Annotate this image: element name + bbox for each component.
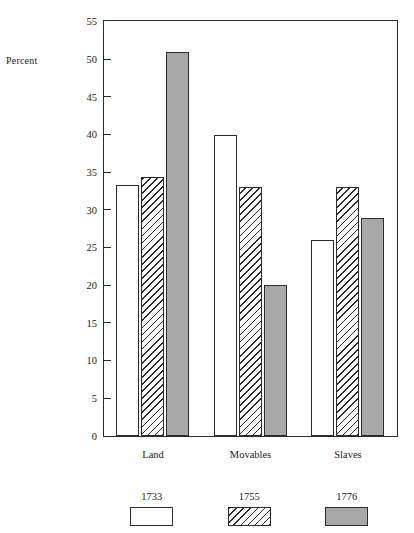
bar-slaves-1776 — [361, 218, 384, 437]
y-tick-label: 40 — [72, 129, 97, 140]
legend-swatch-solid — [325, 507, 368, 526]
y-axis-title: Percent — [6, 55, 37, 66]
legend-item-1755[interactable]: 1755 — [209, 490, 289, 526]
legend-label: 1733 — [112, 490, 192, 503]
y-tick-label: 35 — [72, 166, 97, 177]
y-tick-mark — [104, 209, 111, 210]
y-tick-mark — [104, 247, 111, 248]
y-tick-label: 15 — [72, 317, 97, 328]
bar-movables-1776 — [264, 285, 287, 436]
plot-inner-surface — [104, 21, 397, 436]
legend-item-1733[interactable]: 1733 — [112, 490, 192, 526]
x-category-label: Land — [142, 449, 164, 460]
x-category-label: Movables — [230, 449, 271, 460]
bar-land-1776 — [166, 52, 189, 436]
y-tick-label: 50 — [72, 53, 97, 64]
chart-legend: 173317551776 — [103, 490, 398, 530]
y-tick-mark — [104, 322, 111, 323]
y-tick-mark — [104, 360, 111, 361]
clipped-header-text — [70, 0, 400, 5]
y-tick-label: 45 — [72, 91, 97, 102]
y-tick-label: 10 — [72, 355, 97, 366]
bar-movables-1733 — [214, 135, 237, 436]
y-tick-label: 30 — [72, 204, 97, 215]
legend-label: 1776 — [307, 490, 387, 503]
y-tick-mark — [104, 398, 111, 399]
y-tick-mark — [104, 285, 111, 286]
legend-item-1776[interactable]: 1776 — [307, 490, 387, 526]
y-tick-mark — [104, 96, 111, 97]
y-tick-label: 55 — [72, 16, 97, 27]
legend-swatch-open — [130, 507, 173, 526]
bar-movables-1755 — [239, 187, 262, 436]
x-category-label: Slaves — [334, 449, 361, 460]
y-tick-mark — [104, 172, 111, 173]
bar-chart-figure: Percent 0510152025303540455055 LandMovab… — [0, 0, 414, 533]
y-tick-label: 25 — [72, 242, 97, 253]
bar-slaves-1755 — [336, 187, 359, 436]
y-tick-label: 0 — [72, 430, 97, 441]
y-tick-label: 20 — [72, 280, 97, 291]
bar-land-1733 — [116, 185, 139, 436]
y-tick-mark — [104, 134, 111, 135]
plot-area — [103, 20, 398, 437]
legend-label: 1755 — [209, 490, 289, 503]
y-tick-mark — [104, 59, 111, 60]
legend-swatch-hatch — [228, 507, 271, 526]
y-tick-label: 5 — [72, 393, 97, 404]
bar-slaves-1733 — [311, 240, 334, 436]
bar-land-1755 — [141, 177, 164, 436]
